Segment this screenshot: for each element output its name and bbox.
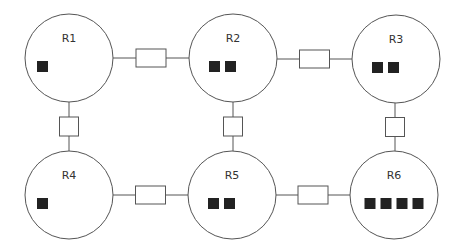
room-circle xyxy=(25,151,113,239)
door-box xyxy=(386,118,405,137)
token-square xyxy=(397,198,408,209)
token-square xyxy=(37,198,48,209)
room-r3: R3 xyxy=(352,15,440,103)
door-box xyxy=(224,117,243,136)
room-r2: R2 xyxy=(189,14,277,102)
room-circle xyxy=(189,14,277,102)
room-circle xyxy=(25,14,113,102)
connection-r2-r5 xyxy=(224,102,243,151)
door-box xyxy=(136,49,166,67)
room-label: R4 xyxy=(62,169,77,182)
connection-r1-r4 xyxy=(60,102,79,151)
room-circle xyxy=(350,151,438,239)
room-r4: R4 xyxy=(25,151,113,239)
connection-r5-r6 xyxy=(276,186,350,204)
token-square xyxy=(225,61,236,72)
token-square xyxy=(37,61,48,72)
room-network-diagram: R1R2R3R4R5R6 xyxy=(0,0,462,251)
token-square xyxy=(381,198,392,209)
room-r6: R6 xyxy=(350,151,438,239)
door-box xyxy=(136,186,166,204)
connection-r3-r6 xyxy=(386,103,405,151)
room-circle xyxy=(352,15,440,103)
door-box xyxy=(60,117,79,136)
room-label: R1 xyxy=(62,32,77,45)
door-box xyxy=(300,50,330,68)
connection-r4-r5 xyxy=(113,186,188,204)
token-square xyxy=(209,61,220,72)
token-square xyxy=(372,62,383,73)
room-label: R3 xyxy=(389,33,404,46)
door-box xyxy=(298,186,328,204)
room-r1: R1 xyxy=(25,14,113,102)
room-label: R2 xyxy=(226,32,241,45)
token-square xyxy=(388,62,399,73)
token-square xyxy=(365,198,376,209)
token-square xyxy=(208,198,219,209)
room-label: R5 xyxy=(225,169,240,182)
room-circle xyxy=(188,151,276,239)
room-r5: R5 xyxy=(188,151,276,239)
token-square xyxy=(224,198,235,209)
room-label: R6 xyxy=(387,169,402,182)
connection-r2-r3 xyxy=(277,50,352,68)
connection-r1-r2 xyxy=(113,49,189,67)
token-square xyxy=(413,198,424,209)
